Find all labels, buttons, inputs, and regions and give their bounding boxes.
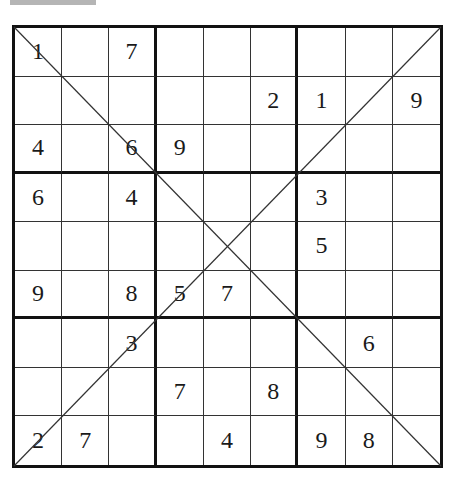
sudoku-board: 1721946964359857367827498	[12, 25, 443, 468]
cell-r1-c9[interactable]	[393, 28, 440, 77]
cell-r6-c8[interactable]	[346, 271, 393, 320]
cell-r8-c5[interactable]	[204, 368, 251, 417]
header-strip	[10, 0, 96, 5]
cell-r8-c4[interactable]: 7	[157, 368, 204, 417]
cell-r2-c3[interactable]	[109, 77, 156, 126]
cell-r8-c8[interactable]	[346, 368, 393, 417]
cell-r4-c8[interactable]	[346, 174, 393, 223]
cell-r4-c2[interactable]	[62, 174, 109, 223]
cell-r6-c9[interactable]	[393, 271, 440, 320]
cell-r3-c2[interactable]	[62, 125, 109, 174]
cell-r7-c2[interactable]	[62, 319, 109, 368]
cell-r1-c8[interactable]	[346, 28, 393, 77]
cell-r5-c6[interactable]	[251, 222, 298, 271]
cell-r8-c6[interactable]: 8	[251, 368, 298, 417]
cell-r1-c7[interactable]	[298, 28, 345, 77]
cell-r8-c7[interactable]	[298, 368, 345, 417]
cell-r8-c2[interactable]	[62, 368, 109, 417]
cell-r1-c1[interactable]: 1	[15, 28, 62, 77]
cell-r3-c7[interactable]	[298, 125, 345, 174]
cell-r6-c2[interactable]	[62, 271, 109, 320]
cell-r7-c3[interactable]: 3	[109, 319, 156, 368]
cell-r4-c9[interactable]	[393, 174, 440, 223]
cell-r9-c8[interactable]: 8	[346, 416, 393, 465]
cell-r6-c5[interactable]: 7	[204, 271, 251, 320]
cell-r5-c9[interactable]	[393, 222, 440, 271]
cell-r2-c5[interactable]	[204, 77, 251, 126]
cell-r5-c5[interactable]	[204, 222, 251, 271]
cell-r4-c5[interactable]	[204, 174, 251, 223]
cell-r3-c6[interactable]	[251, 125, 298, 174]
cell-r5-c1[interactable]	[15, 222, 62, 271]
cell-r7-c1[interactable]	[15, 319, 62, 368]
cell-r7-c5[interactable]	[204, 319, 251, 368]
cell-r2-c8[interactable]	[346, 77, 393, 126]
cell-r8-c3[interactable]	[109, 368, 156, 417]
cell-r9-c1[interactable]: 2	[15, 416, 62, 465]
cell-r7-c7[interactable]	[298, 319, 345, 368]
cell-r2-c9[interactable]: 9	[393, 77, 440, 126]
cell-r6-c3[interactable]: 8	[109, 271, 156, 320]
cell-r6-c1[interactable]: 9	[15, 271, 62, 320]
cell-r2-c6[interactable]: 2	[251, 77, 298, 126]
cell-r6-c7[interactable]	[298, 271, 345, 320]
cell-r4-c4[interactable]	[157, 174, 204, 223]
cell-r3-c3[interactable]: 6	[109, 125, 156, 174]
cell-r5-c3[interactable]	[109, 222, 156, 271]
cell-r9-c7[interactable]: 9	[298, 416, 345, 465]
cell-r3-c4[interactable]: 9	[157, 125, 204, 174]
cell-r8-c1[interactable]	[15, 368, 62, 417]
cell-r3-c9[interactable]	[393, 125, 440, 174]
cell-r9-c4[interactable]	[157, 416, 204, 465]
cell-r3-c1[interactable]: 4	[15, 125, 62, 174]
cell-r4-c3[interactable]: 4	[109, 174, 156, 223]
cell-r3-c8[interactable]	[346, 125, 393, 174]
cell-r5-c2[interactable]	[62, 222, 109, 271]
cell-r9-c2[interactable]: 7	[62, 416, 109, 465]
cell-r7-c4[interactable]	[157, 319, 204, 368]
cell-r4-c7[interactable]: 3	[298, 174, 345, 223]
cell-r6-c4[interactable]: 5	[157, 271, 204, 320]
cell-r2-c4[interactable]	[157, 77, 204, 126]
cell-r3-c5[interactable]	[204, 125, 251, 174]
cell-r9-c3[interactable]	[109, 416, 156, 465]
cell-r9-c5[interactable]: 4	[204, 416, 251, 465]
cell-r8-c9[interactable]	[393, 368, 440, 417]
cell-r5-c8[interactable]	[346, 222, 393, 271]
cell-r1-c3[interactable]: 7	[109, 28, 156, 77]
cell-r5-c4[interactable]	[157, 222, 204, 271]
cell-r2-c2[interactable]	[62, 77, 109, 126]
cell-r2-c7[interactable]: 1	[298, 77, 345, 126]
cell-r7-c9[interactable]	[393, 319, 440, 368]
cell-r4-c1[interactable]: 6	[15, 174, 62, 223]
cell-r1-c2[interactable]	[62, 28, 109, 77]
cell-r6-c6[interactable]	[251, 271, 298, 320]
cell-r7-c6[interactable]	[251, 319, 298, 368]
cell-r9-c9[interactable]	[393, 416, 440, 465]
cell-r4-c6[interactable]	[251, 174, 298, 223]
cell-r2-c1[interactable]	[15, 77, 62, 126]
cell-r1-c6[interactable]	[251, 28, 298, 77]
cell-r9-c6[interactable]	[251, 416, 298, 465]
cell-r1-c4[interactable]	[157, 28, 204, 77]
cell-r1-c5[interactable]	[204, 28, 251, 77]
cell-r7-c8[interactable]: 6	[346, 319, 393, 368]
cell-r5-c7[interactable]: 5	[298, 222, 345, 271]
